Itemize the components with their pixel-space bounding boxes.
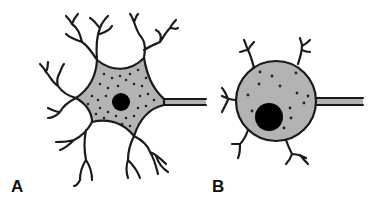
panel-label-b: B <box>212 178 224 195</box>
nucleus-b <box>255 103 283 131</box>
neuron-a <box>40 14 206 186</box>
neuron-diagram <box>0 0 378 203</box>
axon-b <box>312 98 363 105</box>
panel-label-a: A <box>11 178 23 195</box>
axon-a <box>160 99 206 105</box>
neuron-b <box>222 38 363 164</box>
nucleus-a <box>112 93 130 111</box>
